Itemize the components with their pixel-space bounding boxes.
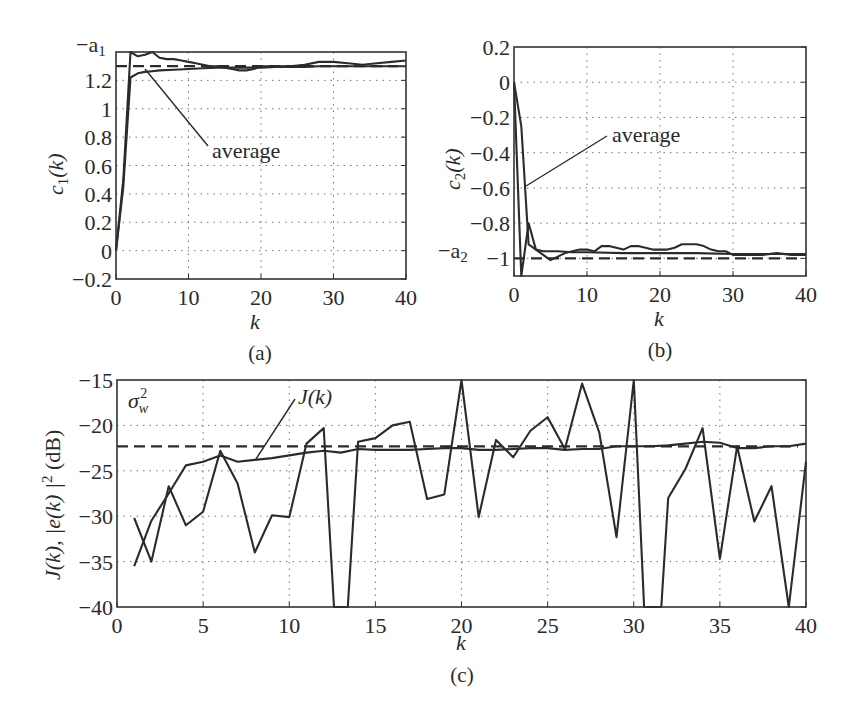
y-tick-label: −0.2 bbox=[72, 267, 112, 292]
y-tick-label: 1 bbox=[101, 97, 112, 122]
figure: 010203040−0.200.20.40.60.811.2 −a1 avera… bbox=[0, 0, 848, 723]
plot-c-grid bbox=[117, 380, 806, 607]
x-tick-label: 5 bbox=[198, 613, 209, 638]
plot-c-series bbox=[117, 380, 806, 607]
y-tick-label: 0 bbox=[101, 239, 112, 264]
x-tick-label: 0 bbox=[509, 282, 520, 307]
plot-b-frame bbox=[514, 47, 806, 276]
plot-c-jk-leader bbox=[256, 399, 295, 459]
y-tick-label: 0.8 bbox=[85, 125, 113, 150]
x-tick-label: 15 bbox=[364, 613, 386, 638]
y-tick-label: 0.2 bbox=[85, 210, 113, 235]
plot-c-frame bbox=[117, 380, 806, 607]
plot-c-ylabel: J(k), |e(k) |2 (dB) bbox=[39, 430, 65, 580]
x-tick-label: 0 bbox=[112, 613, 123, 638]
x-tick-label: 10 bbox=[576, 282, 598, 307]
series-line bbox=[514, 82, 806, 276]
y-tick-label: −30 bbox=[79, 504, 113, 529]
y-tick-label: −25 bbox=[79, 459, 113, 484]
x-tick-label: 30 bbox=[722, 282, 744, 307]
x-tick-label: 20 bbox=[649, 282, 671, 307]
y-tick-label: −0.8 bbox=[470, 211, 510, 236]
y-tick-label: 0.2 bbox=[483, 35, 511, 60]
x-tick-label: 40 bbox=[795, 282, 817, 307]
plot-c-jk-label: J(k) bbox=[298, 384, 332, 409]
y-tick-label: −40 bbox=[79, 595, 113, 620]
plot-b-side-label: −a2 bbox=[438, 238, 468, 265]
y-tick-label: −20 bbox=[79, 413, 113, 438]
x-tick-label: 40 bbox=[395, 285, 417, 310]
plot-c-tick-labels: 0510152025303540−15−20−25−30−35−40 bbox=[79, 368, 817, 638]
plot-b-grid bbox=[514, 47, 806, 276]
plot-c-error: 0510152025303540−15−20−25−30−35−40 σw2 J… bbox=[39, 368, 817, 687]
series-line bbox=[514, 82, 806, 254]
series-line bbox=[134, 442, 806, 566]
plot-c-xlabel: k bbox=[456, 630, 467, 655]
y-tick-label: −0.2 bbox=[470, 105, 510, 130]
plot-b-average-label: average bbox=[612, 122, 680, 147]
plot-b-xlabel: k bbox=[654, 306, 665, 331]
x-tick-label: 10 bbox=[278, 613, 300, 638]
y-tick-label: −1 bbox=[487, 246, 510, 271]
x-tick-label: 35 bbox=[709, 613, 731, 638]
plot-b-ylabel: c2(k) bbox=[440, 148, 468, 190]
y-tick-label: 0 bbox=[499, 70, 510, 95]
plot-a-ylabel: c1(k) bbox=[43, 153, 71, 195]
y-tick-label: −35 bbox=[79, 550, 113, 575]
plot-b-caption: (b) bbox=[648, 338, 673, 362]
y-tick-label: 0.4 bbox=[85, 182, 113, 207]
plot-a-c1: 010203040−0.200.20.40.60.811.2 −a1 avera… bbox=[43, 32, 417, 365]
y-tick-label: −0.4 bbox=[470, 141, 510, 166]
x-tick-label: 30 bbox=[623, 613, 645, 638]
x-tick-label: 40 bbox=[795, 613, 817, 638]
x-tick-label: 30 bbox=[323, 285, 345, 310]
series-line bbox=[134, 380, 806, 607]
plot-a-average-label: average bbox=[212, 138, 280, 163]
plot-b-c2: 0102030400.20−0.2−0.4−0.6−0.8−1 −a2 aver… bbox=[438, 35, 817, 362]
y-tick-label: 1.2 bbox=[85, 68, 113, 93]
x-tick-label: 10 bbox=[178, 285, 200, 310]
x-tick-label: 0 bbox=[111, 285, 122, 310]
plot-b-average-leader bbox=[526, 136, 607, 186]
x-tick-label: 20 bbox=[250, 285, 272, 310]
plot-c-caption: (c) bbox=[450, 663, 473, 687]
plot-a-xlabel: k bbox=[250, 309, 261, 334]
y-tick-label: −15 bbox=[79, 368, 113, 393]
y-tick-label: 0.6 bbox=[85, 154, 113, 179]
plot-a-top-label: −a1 bbox=[76, 32, 106, 59]
plot-b-series bbox=[514, 82, 806, 276]
plot-a-caption: (a) bbox=[248, 341, 271, 365]
plot-c-sigma-label: σw2 bbox=[128, 386, 149, 416]
plot-a-average-leader bbox=[145, 69, 208, 146]
y-tick-label: −0.6 bbox=[470, 176, 510, 201]
x-tick-label: 25 bbox=[537, 613, 559, 638]
